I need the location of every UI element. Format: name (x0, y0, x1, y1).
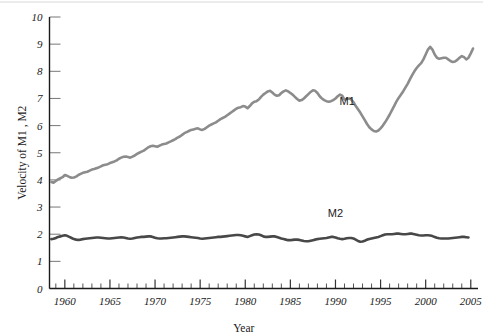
y-tick-label: 0 (37, 283, 43, 295)
series-annotations: M1M2 (328, 95, 355, 219)
x-tick-label: 1965 (99, 295, 122, 307)
x-axis-title: Year (233, 322, 254, 334)
series-label-m1: M1 (340, 95, 355, 107)
axis-lines (50, 17, 479, 289)
x-tick-label: 2005 (460, 295, 483, 307)
x-tick-label: 1990 (324, 295, 347, 307)
y-axis-ticks (50, 17, 61, 289)
y-tick-label: 7 (37, 92, 43, 104)
velocity-chart: 012345678910 196019651970197519801985199… (0, 0, 483, 336)
x-axis-tick-labels: 1960196519701975198019851990199520002005 (54, 295, 482, 307)
y-tick-label: 9 (37, 38, 43, 50)
y-tick-label: 2 (37, 228, 43, 240)
y-tick-label: 3 (36, 201, 43, 213)
x-tick-label: 1975 (189, 295, 212, 307)
x-axis-ticks (56, 280, 471, 289)
x-tick-label: 1985 (279, 295, 302, 307)
y-tick-label: 1 (37, 255, 43, 267)
series-line-m1 (51, 47, 473, 183)
y-tick-label: 8 (37, 65, 43, 77)
y-tick-label: 5 (37, 147, 43, 159)
y-axis-title: Velocity of M1 , M2 (16, 105, 29, 199)
y-tick-label: 4 (37, 174, 43, 186)
x-tick-label: 1970 (144, 295, 167, 307)
series-line-m2 (51, 234, 468, 242)
data-series (51, 47, 473, 242)
axis-titles: YearVelocity of M1 , M2 (16, 105, 255, 334)
x-tick-label: 1995 (370, 295, 393, 307)
x-tick-label: 1960 (54, 295, 77, 307)
x-tick-label: 2000 (415, 295, 438, 307)
y-tick-label: 10 (32, 11, 44, 23)
y-axis-tick-labels: 012345678910 (32, 11, 44, 295)
series-label-m2: M2 (328, 207, 343, 219)
x-tick-label: 1980 (234, 295, 257, 307)
chart-canvas: 012345678910 196019651970197519801985199… (0, 0, 483, 336)
y-tick-label: 6 (37, 120, 43, 132)
